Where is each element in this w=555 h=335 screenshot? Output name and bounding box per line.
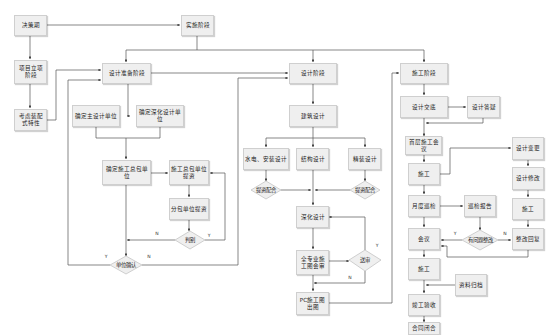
first-meeting-node: 首层施工会议 xyxy=(405,136,442,155)
node-label: 设计准备阶段 xyxy=(109,70,145,77)
node-label: 施工 xyxy=(522,206,534,213)
node-label: 结构设计 xyxy=(301,156,325,163)
branch-label-no: N xyxy=(503,231,506,236)
design-modify-node: 设计修改 xyxy=(512,167,544,190)
node-label: 施工 xyxy=(418,171,430,178)
node-label: 深化设计 xyxy=(301,214,325,221)
consider-prefab-node: 考虑装配式特性 xyxy=(14,109,47,131)
branch-label-no: N xyxy=(348,275,351,280)
struct-design-node: 结构设计 xyxy=(296,148,329,170)
node-label: 资料归档 xyxy=(459,282,483,289)
arch-design-node: 建筑设计 xyxy=(289,105,337,127)
node-label: 月度巡检 xyxy=(412,203,436,210)
node-label: 项目立项阶段 xyxy=(16,65,45,79)
detail-designer-node: 确定深化设计单位 xyxy=(136,105,184,127)
construct-right-node: 施工 xyxy=(512,198,544,220)
design-qa-node: 设计答疑 xyxy=(467,96,500,118)
inspection-report-node: 巡检报告 xyxy=(464,195,496,217)
node-label: 建筑设计 xyxy=(301,113,325,120)
sub-submit-node: 分包单位提资 xyxy=(169,198,209,220)
node-label: 决策期 xyxy=(22,22,40,29)
coord-left-label: 提资配合 xyxy=(256,186,276,194)
connector xyxy=(197,50,313,62)
branch-label-yes: Y xyxy=(208,233,211,238)
connector xyxy=(313,50,424,62)
node-label: 施工总包单位提资 xyxy=(171,166,207,180)
connector xyxy=(96,127,160,138)
node-label: 确定深化设计单位 xyxy=(138,109,182,123)
project-approval-node: 项目立项阶段 xyxy=(14,60,47,84)
node-label: 施工 xyxy=(418,266,430,273)
node-label: 确定主设计单位 xyxy=(75,113,117,120)
node-label: 施工阶段 xyxy=(412,70,436,77)
branch-label-yes: Y xyxy=(105,254,108,259)
node-label: 实施阶段 xyxy=(186,22,210,29)
design-phase-node: 设计阶段 xyxy=(289,63,337,84)
design-change-node: 设计变更 xyxy=(512,137,544,160)
node-label: 会议 xyxy=(418,236,430,243)
connector xyxy=(128,84,130,116)
node-label: 考虑装配式特性 xyxy=(16,113,45,127)
construct-1-node: 施工 xyxy=(408,163,440,185)
node-label: PC施工图出图 xyxy=(298,297,327,311)
branch-label-yes: Y xyxy=(454,231,457,236)
implementation-phase-node: 实施阶段 xyxy=(181,15,214,36)
node-label: 确定施工总包单位 xyxy=(104,166,149,180)
gc-submit-node: 施工总包单位提资 xyxy=(169,160,209,185)
node-label: 设计答疑 xyxy=(472,104,496,111)
rectify-reply-node: 整改回复 xyxy=(512,228,544,250)
node-label: 水电、安装设计 xyxy=(245,156,287,163)
node-label: 设计修改 xyxy=(516,175,540,182)
mep-design-node: 水电、安装设计 xyxy=(243,148,289,170)
flowchart-canvas: 决策期 实施阶段 项目立项阶段 考虑装配式特性 设计准备阶段 确定主设计单位 确… xyxy=(0,0,555,335)
deepen-design-node: 深化设计 xyxy=(296,206,329,228)
completion-accept-node: 竣工验收 xyxy=(408,294,440,316)
connector xyxy=(266,138,313,147)
connector xyxy=(313,138,365,147)
issue-rectify-label: 有问题整改 xyxy=(468,236,493,244)
connector xyxy=(126,36,197,62)
judge-label: 判别 xyxy=(185,236,195,244)
coord-right-label: 提资配合 xyxy=(355,186,375,194)
meeting-node: 会议 xyxy=(408,228,440,250)
submit-review-label: 送审 xyxy=(360,256,370,264)
decision-period-node: 决策期 xyxy=(14,15,47,36)
connector xyxy=(426,118,483,123)
node-label: 设计交底 xyxy=(412,104,436,111)
node-label: 全专业施工图会审 xyxy=(298,256,327,270)
node-label: 整改回复 xyxy=(516,236,540,243)
design-prep-node: 设计准备阶段 xyxy=(102,63,151,84)
construction-phase-node: 施工阶段 xyxy=(400,63,448,84)
contract-close-node: 合同闭合 xyxy=(408,322,440,335)
monthly-inspection-node: 月度巡检 xyxy=(408,195,440,217)
node-label: 首层施工会议 xyxy=(407,139,440,153)
node-label: 分包单位提资 xyxy=(171,206,207,213)
pc-drawings-node: PC施工图出图 xyxy=(296,292,329,315)
node-label: 合同闭合 xyxy=(412,325,436,332)
archive-node: 资料归档 xyxy=(455,274,487,296)
node-label: 精装设计 xyxy=(353,156,377,163)
branch-label-no: N xyxy=(147,254,150,259)
branch-label-no: N xyxy=(155,231,158,236)
connector xyxy=(329,217,365,250)
node-label: 竣工验收 xyxy=(412,302,436,309)
drawing-review-node: 全专业施工图会审 xyxy=(296,250,329,275)
general-contractor-node: 确定施工总包单位 xyxy=(102,160,151,185)
node-label: 巡检报告 xyxy=(468,203,492,210)
construct-2-node: 施工 xyxy=(408,258,440,280)
branch-label-yes: Y xyxy=(376,243,379,248)
design-disclosure-node: 设计交底 xyxy=(400,96,448,118)
unit-confirm-label: 单位确认 xyxy=(116,261,136,269)
main-designer-node: 确定主设计单位 xyxy=(72,105,120,127)
node-label: 设计变更 xyxy=(516,145,540,152)
node-label: 设计阶段 xyxy=(301,70,325,77)
interior-design-node: 精装设计 xyxy=(348,148,381,170)
connector xyxy=(440,148,511,174)
